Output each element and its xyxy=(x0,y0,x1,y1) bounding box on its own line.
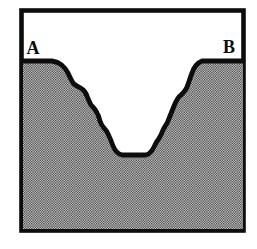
valley-cross-section-diagram: A B xyxy=(0,0,257,249)
label-b: B xyxy=(223,37,235,57)
diagram-canvas: A B xyxy=(0,0,257,249)
label-a: A xyxy=(27,38,40,58)
